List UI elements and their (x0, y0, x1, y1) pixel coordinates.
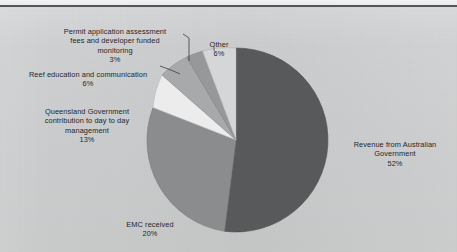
pie-slice-revenue-australian-government[interactable] (224, 48, 327, 232)
slice-label-text: Other (210, 40, 229, 49)
slice-label-value: 13% (22, 135, 152, 144)
slice-label-value: 52% (340, 159, 450, 168)
slice-label-queensland-government-contribution: Queensland Government contribution to da… (22, 98, 152, 153)
slice-label-value: 20% (108, 229, 192, 238)
slice-label-value: 6% (12, 79, 164, 88)
pie-chart: Permit application assessment fees and d… (0, 0, 457, 252)
slice-label-reef-education-and-communication: Reef education and communication 6% (12, 61, 164, 98)
slice-label-value: 6% (196, 49, 242, 58)
slice-label-text: Reef education and communication (29, 70, 147, 79)
chart-page: Permit application assessment fees and d… (0, 0, 457, 252)
slice-label-revenue-australian-government: Revenue from Australian Government 52% (340, 131, 450, 177)
slice-label-other: Other 6% (196, 31, 242, 68)
slice-label-text: EMC received (126, 220, 173, 229)
slice-label-text: Revenue from Australian Government (354, 140, 437, 158)
slice-label-text: Queensland Government contribution to da… (45, 107, 130, 134)
slice-label-emc-received: EMC received 20% (108, 211, 192, 248)
slice-label-text: Permit application assessment fees and d… (64, 27, 166, 54)
